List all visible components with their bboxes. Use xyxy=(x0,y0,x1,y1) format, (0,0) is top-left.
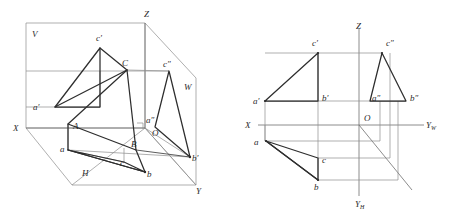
triangle-spatial-ABC xyxy=(68,70,136,150)
label-point-a-top-left: a xyxy=(60,144,65,154)
label-point-A: A xyxy=(72,121,79,131)
vertex-dot-right-cside xyxy=(381,52,383,54)
label-point-b-front-left: b′ xyxy=(192,153,200,163)
right-triangle-front-projection xyxy=(265,53,318,101)
label-axis-y-left: Y xyxy=(196,186,202,196)
left-pictorial-view: V H W X Y Z O A B C a′ b′ c′ a b c a″ c″ xyxy=(12,9,202,196)
label-point-b-top-left: b xyxy=(147,169,152,179)
label-origin-o-right: O xyxy=(364,113,371,123)
label-point-B: B xyxy=(131,139,137,149)
triangle-front-projection xyxy=(55,48,100,107)
label-point-b-top-right: b xyxy=(314,182,319,192)
label-point-a-side-left: a″ xyxy=(146,115,155,125)
label-plane-v: V xyxy=(32,29,39,39)
label-point-c-side-right: c″ xyxy=(386,38,394,48)
edge-a-to-b xyxy=(68,150,145,172)
label-axis-z-right: Z xyxy=(356,21,362,31)
vertex-dot-right-aprime xyxy=(264,100,266,102)
label-point-c-front-right: c′ xyxy=(312,38,319,48)
label-axis-yh: YH xyxy=(355,199,365,210)
w-plane-top-edge xyxy=(145,23,196,78)
vertex-dot-right-b-top xyxy=(317,179,319,181)
label-axis-x-left: X xyxy=(12,123,19,133)
projection-diagram-canvas: V H W X Y Z O A B C a′ b′ c′ a b c a″ c″ xyxy=(0,0,456,222)
label-plane-w: W xyxy=(184,82,193,92)
label-point-a-top-right: a xyxy=(254,137,259,147)
vertex-dot-bside xyxy=(189,156,191,158)
label-point-C: C xyxy=(122,58,129,68)
right-edge-a-to-b-top xyxy=(266,141,318,180)
right-orthographic-view: X Z YW YH O a′ b′ c′ a″ b″ c″ a b c xyxy=(244,21,437,210)
label-point-a-side-right: a″ xyxy=(372,93,381,103)
label-point-b-front-right: b′ xyxy=(322,93,330,103)
label-point-b-side-right: b″ xyxy=(410,93,419,103)
edge-aprime-to-C xyxy=(55,70,127,107)
vertex-dot-right-a-top xyxy=(265,140,267,142)
label-point-c-front-left: c′ xyxy=(96,33,103,43)
label-point-c-top-left: c xyxy=(120,158,124,168)
label-point-a-front-right: a′ xyxy=(253,96,261,106)
label-axis-yw: YW xyxy=(426,120,437,131)
label-origin-o-left: O xyxy=(152,128,159,138)
label-point-c-side-left: c″ xyxy=(163,59,171,69)
label-axis-x-right: X xyxy=(244,120,251,130)
label-axis-z-left: Z xyxy=(144,9,150,19)
label-plane-h: H xyxy=(81,168,89,178)
label-axis-yh-sub: H xyxy=(359,204,365,210)
technical-drawing-figure: V H W X Y Z O A B C a′ b′ c′ a b c a″ c″ xyxy=(0,0,456,222)
label-axis-yw-sub: W xyxy=(431,125,437,131)
label-point-a-front-left: a′ xyxy=(33,102,41,112)
vertex-dot-right-cprime xyxy=(317,52,319,54)
vertex-dot-b-top xyxy=(144,171,146,173)
label-point-c-top-right: c xyxy=(322,155,326,165)
edge-B-to-bside xyxy=(136,150,190,157)
